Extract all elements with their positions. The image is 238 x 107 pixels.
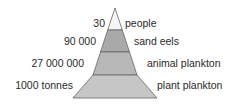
count-label-sand-eels: 90 000 [64, 35, 96, 47]
level-plant-plankton [73, 75, 157, 98]
organism-label-sand-eels: sand eels [134, 35, 179, 47]
count-label-plant-plankton: 1000 tonnes [15, 79, 73, 91]
level-animal-plankton [93, 52, 137, 75]
organism-label-people: people [125, 17, 157, 29]
level-people [108, 8, 123, 30]
count-label-animal-plankton: 27 000 000 [31, 57, 84, 69]
organism-label-animal-plankton: animal plankton [147, 57, 221, 69]
count-label-people: 30 [93, 17, 105, 29]
level-sand-eels [101, 30, 130, 52]
organism-label-plant-plankton: plant plankton [157, 79, 222, 91]
